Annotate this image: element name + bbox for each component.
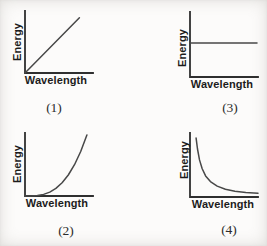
y-axis-label: Energy — [11, 144, 23, 183]
subplot-3-constant: Energy Wavelength (3) — [133, 0, 267, 123]
curve-hyperbolic-decrease — [196, 138, 258, 193]
y-axis-label: Energy — [11, 22, 23, 61]
curve-concave-up-increase — [25, 135, 87, 196]
x-axis-label: Wavelength — [191, 78, 254, 90]
axes — [190, 133, 258, 197]
subplot-caption: (3) — [222, 100, 238, 115]
subplot-1-linear: Energy Wavelength (1) — [0, 0, 133, 123]
curve-linear-increase — [25, 18, 79, 73]
subplot-2-exponential: Energy Wavelength (2) — [0, 123, 133, 246]
x-axis-label: Wavelength — [26, 197, 89, 209]
subplot-caption: (1) — [46, 100, 62, 115]
subplot-caption: (2) — [58, 223, 74, 238]
axes — [190, 12, 258, 77]
x-axis-label: Wavelength — [25, 74, 88, 86]
x-axis-label: Wavelength — [192, 198, 255, 210]
subplot-caption: (4) — [221, 222, 237, 237]
y-axis-label: Energy — [176, 28, 188, 67]
y-axis-label: Energy — [178, 140, 190, 179]
subplot-4-inverse: Energy Wavelength (4) — [133, 123, 267, 246]
figure-four-energy-wavelength-graphs: Energy Wavelength (1) Energy Wavelength … — [0, 0, 267, 246]
